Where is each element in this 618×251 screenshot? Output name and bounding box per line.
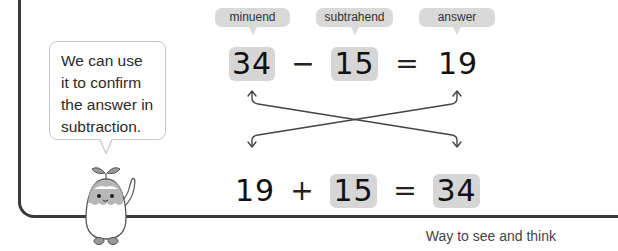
equals-sign-bottom: = (393, 174, 417, 208)
plus-sign: + (290, 174, 314, 208)
sum-value: 34 (433, 174, 480, 208)
addend1-value: 19 (232, 174, 278, 208)
addend2-value: 15 (330, 174, 377, 208)
footer-caption: Way to see and think (426, 228, 556, 244)
